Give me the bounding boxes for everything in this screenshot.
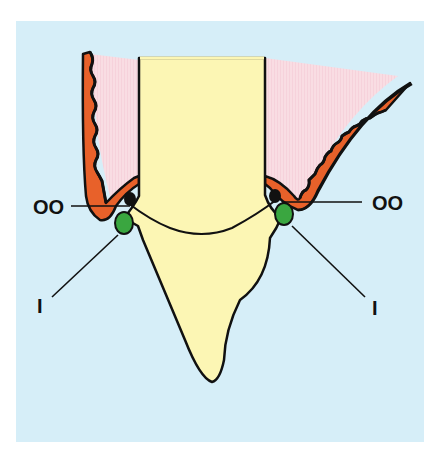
- right-green-structure: [275, 203, 293, 225]
- label-right-oo: OO: [372, 192, 403, 214]
- right-black-structure: [269, 189, 281, 203]
- left-green-structure: [115, 212, 133, 234]
- tooth-diagram: OO OO I I: [0, 0, 446, 462]
- label-left-oo: OO: [33, 196, 64, 218]
- left-black-structure: [124, 192, 136, 206]
- label-left-i: I: [37, 295, 43, 317]
- label-right-i: I: [372, 297, 378, 319]
